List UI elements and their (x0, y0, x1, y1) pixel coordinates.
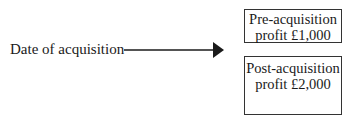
post-acquisition-profit-box: Post-acquisition profit £2,000 (244, 56, 342, 115)
box-line: Post-acquisition (245, 60, 341, 76)
box-line: Pre-acquisition (245, 11, 341, 27)
box-line: profit £1,000 (245, 27, 341, 43)
date-of-acquisition-label: Date of acquisition (10, 41, 124, 58)
pre-acquisition-profit-box: Pre-acquisition profit £1,000 (244, 9, 342, 43)
arrow-right-icon (124, 42, 225, 58)
box-line: profit £2,000 (245, 76, 341, 92)
